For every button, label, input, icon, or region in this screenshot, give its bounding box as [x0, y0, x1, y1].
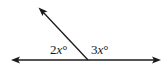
angle-diagram: 2x° 3x°	[0, 0, 166, 70]
angle-label-right: 3x°	[91, 42, 108, 57]
angle-label-left: 2x°	[50, 42, 67, 57]
angle-left-unit: °	[62, 42, 67, 57]
angle-right-unit: °	[103, 42, 108, 57]
